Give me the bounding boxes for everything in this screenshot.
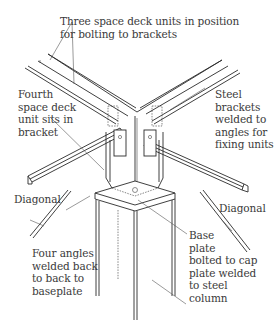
label-fourth-unit: Fourth space deck unit sits in bracket	[18, 88, 76, 138]
label-base-plate: Base plate bolted to cap plate welded to…	[189, 229, 257, 304]
label-diagonal-right: Diagonal	[219, 202, 266, 215]
label-diagonal-left: Diagonal	[14, 193, 61, 206]
label-three-units: Three space deck units in position for b…	[60, 15, 239, 40]
base-plate	[95, 181, 175, 211]
label-steel-brackets: Steel brackets welded to angles for fixi…	[215, 88, 274, 151]
label-four-angles: Four angles welded back to back to basep…	[32, 247, 98, 297]
